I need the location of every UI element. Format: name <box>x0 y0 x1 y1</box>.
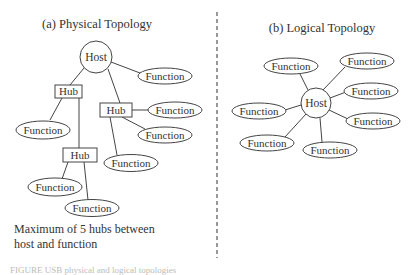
function-label: Function <box>239 105 279 117</box>
hub-node: Hub <box>55 85 82 98</box>
physical-topology-title: (a) Physical Topology <box>42 17 153 31</box>
function-label: Function <box>72 202 112 214</box>
hub-node: Hub <box>63 148 97 162</box>
function-label: Function <box>247 137 287 149</box>
function-label: Function <box>111 157 151 169</box>
function-label: Function <box>351 85 391 97</box>
function-label: Function <box>310 144 350 156</box>
max-hubs-note: Maximum of 5 hubs between host and funct… <box>14 222 155 252</box>
hub-label: Hub <box>59 85 78 97</box>
physical-host-node: Host <box>80 41 112 73</box>
logical-topology-title: (b) Logical Topology <box>269 21 376 35</box>
function-label: Function <box>155 104 195 116</box>
function-label: Function <box>271 60 311 72</box>
logical-host-label: Host <box>305 97 328 109</box>
note-line-2: host and function <box>14 237 155 252</box>
function-label: Function <box>353 115 393 127</box>
function-label: Function <box>347 55 387 67</box>
hub-node: Hub <box>100 103 132 117</box>
function-label: Function <box>145 129 185 141</box>
function-label: Function <box>35 181 75 193</box>
physical-host-label: Host <box>85 51 108 63</box>
function-label: Function <box>145 70 185 82</box>
function-label: Function <box>23 124 63 136</box>
hub-label: Hub <box>71 149 90 161</box>
figure-caption: FIGURE USB physical and logical topologi… <box>10 265 176 275</box>
hub-label: Hub <box>107 104 126 116</box>
physical-function-ellipses <box>16 68 202 217</box>
note-line-1: Maximum of 5 hubs between <box>14 222 155 237</box>
logical-host-node: Host <box>301 88 331 118</box>
